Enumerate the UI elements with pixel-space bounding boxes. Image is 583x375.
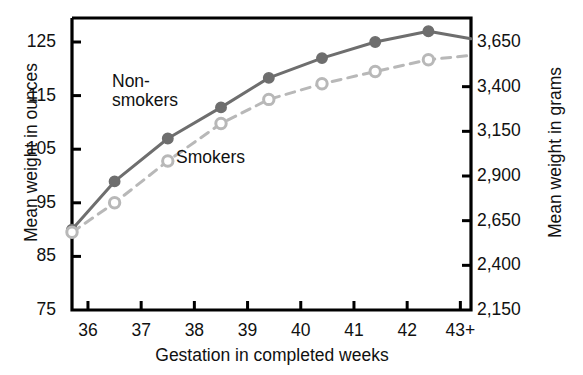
- data-point: [163, 133, 173, 143]
- axis-frame: [72, 18, 471, 310]
- series-line-non-smokers: [72, 31, 471, 229]
- data-point: [67, 227, 77, 237]
- data-point: [317, 79, 327, 89]
- data-series-layer: [67, 26, 471, 237]
- data-point: [423, 55, 433, 65]
- data-point: [370, 66, 380, 76]
- chart-figure: Mean weight in ounces Mean weight in gra…: [0, 0, 583, 375]
- data-point: [370, 37, 380, 47]
- plot-area: [0, 0, 583, 375]
- series-label-smokers: Smokers: [176, 148, 245, 167]
- series-label-nonsmokers-line1: Non-: [112, 72, 178, 91]
- series-label-nonsmokers: Non- smokers: [112, 72, 178, 110]
- data-point: [109, 198, 119, 208]
- data-point: [163, 156, 173, 166]
- data-point: [423, 26, 433, 36]
- data-point: [109, 176, 119, 186]
- data-point: [264, 73, 274, 83]
- data-point: [264, 94, 274, 104]
- data-point: [216, 118, 226, 128]
- data-point: [317, 53, 327, 63]
- data-point: [216, 102, 226, 112]
- series-label-nonsmokers-line2: smokers: [112, 91, 178, 110]
